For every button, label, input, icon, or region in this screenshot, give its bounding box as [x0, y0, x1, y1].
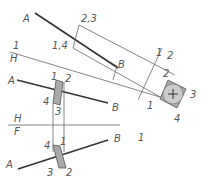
reference-line-h-f: H F 1: [8, 113, 144, 143]
label-aux-4: 4: [174, 113, 180, 124]
label-ref-1: 1: [13, 40, 19, 51]
label-23-top: 2,3: [81, 13, 97, 24]
label-a-h: A: [7, 75, 15, 86]
label-fold-1: 1: [138, 132, 144, 143]
label-aux-2: 2: [163, 68, 169, 79]
label-14-top: 1,4: [52, 40, 68, 51]
label-f-3: 3: [47, 167, 53, 177]
frontal-view: A B 1 4 3 2: [5, 133, 121, 177]
label-a-top: A: [22, 13, 30, 24]
label-f-2: 2: [66, 167, 72, 177]
label-f-4: 4: [44, 140, 50, 151]
fold-line-1-h: [10, 52, 170, 100]
label-h-3: 3: [55, 106, 61, 117]
descriptive-geometry-diagram: A B 2,3 1,4 1 H 1 2 1 2 3 4: [0, 0, 208, 177]
label-ref-hf-h: H: [14, 113, 22, 124]
label-h-1: 1: [51, 71, 57, 82]
top-view: A B 2,3 1,4: [22, 13, 175, 98]
diagram-canvas: A B 2,3 1,4 1 H 1 2 1 2 3 4: [0, 0, 208, 177]
label-f-1: 1: [60, 136, 66, 147]
label-b-top: B: [118, 59, 125, 70]
aux-view-2: 2 3 4: [160, 68, 196, 124]
prism-section-horizontal: [53, 80, 63, 105]
label-ref-12-1-lower: 1: [147, 100, 153, 111]
label-b-f: B: [114, 133, 121, 144]
label-ref-hf-f: F: [14, 126, 20, 137]
label-aux-3: 3: [190, 89, 196, 100]
label-ref-h: H: [10, 53, 18, 64]
label-b-h: B: [112, 102, 119, 113]
label-a-f: A: [5, 159, 13, 170]
label-ref-12-1: 1: [156, 47, 162, 58]
label-h-2: 2: [65, 73, 71, 84]
label-ref-12-2: 2: [167, 50, 173, 61]
label-h-4: 4: [43, 96, 49, 107]
line-ab-top: [35, 13, 118, 68]
